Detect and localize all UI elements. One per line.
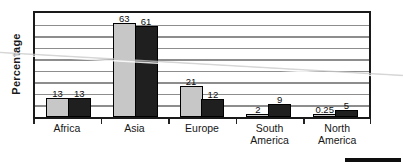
- bar-value-label: 2: [255, 104, 260, 115]
- category-north-america: 0.255: [302, 13, 369, 117]
- bar-value-label: 0.25: [315, 104, 334, 115]
- bar-pair-europe: 2112: [169, 86, 236, 117]
- bar-pair-africa: 1313: [35, 98, 102, 117]
- x-axis-label-line: Asia: [101, 123, 169, 135]
- x-axis-label-africa: Africa: [33, 123, 101, 146]
- bar-south-america-light-gray-bars: 2: [246, 114, 269, 117]
- bar-value-label: 63: [119, 13, 130, 24]
- x-axis-label-line: South America: [236, 123, 304, 146]
- bar-value-label: 13: [52, 88, 63, 99]
- x-axis-label-europe: Europe: [168, 123, 236, 146]
- plot-area: 131363612112290.255: [33, 11, 371, 119]
- x-axis-label-line: Africa: [33, 123, 101, 135]
- bar-pair-asia: 6361: [102, 23, 169, 117]
- bar-asia-dark-bars: 61: [135, 26, 158, 117]
- x-axis-label-line: America: [303, 135, 371, 147]
- x-axis-label-line: Europe: [168, 123, 236, 135]
- x-axis-label-north-america: NorthAmerica: [303, 123, 371, 146]
- bar-africa-dark-bars: 13: [68, 98, 91, 117]
- bar-europe-dark-bars: 12: [201, 99, 224, 117]
- category-africa: 1313: [35, 13, 102, 117]
- bar-north-america-dark-bars: 5: [335, 110, 358, 117]
- y-axis-title: Percentage: [10, 33, 22, 94]
- x-axis-label-line: North: [303, 123, 371, 135]
- bar-value-label: 21: [186, 76, 197, 87]
- bar-chart-figure: Percentage 131363612112290.255 AfricaAsi…: [0, 0, 403, 166]
- x-axis-label-south-america: South America: [236, 123, 304, 146]
- category-asia: 6361: [102, 13, 169, 117]
- bar-pair-south-america: 29: [235, 104, 302, 117]
- category-europe: 2112: [169, 13, 236, 117]
- bar-value-label: 13: [74, 88, 85, 99]
- bar-europe-light-gray-bars: 21: [180, 86, 203, 117]
- x-axis-label-asia: Asia: [101, 123, 169, 146]
- bar-north-america-light-gray-bars: 0.25: [313, 114, 336, 117]
- x-axis-labels: AfricaAsiaEuropeSouth AmericaNorthAmeric…: [33, 123, 371, 146]
- bars-layer: 131363612112290.255: [35, 13, 369, 117]
- bar-value-label: 9: [277, 94, 282, 105]
- bar-value-label: 61: [141, 16, 152, 27]
- bar-value-label: 12: [208, 89, 219, 100]
- bar-africa-light-gray-bars: 13: [46, 98, 69, 117]
- bar-asia-light-gray-bars: 63: [113, 23, 136, 117]
- category-south-america: 29: [235, 13, 302, 117]
- cropped-black-rule: [345, 158, 401, 162]
- bar-value-label: 5: [344, 100, 349, 111]
- bar-south-america-dark-bars: 9: [268, 104, 291, 117]
- bar-pair-north-america: 0.255: [302, 110, 369, 117]
